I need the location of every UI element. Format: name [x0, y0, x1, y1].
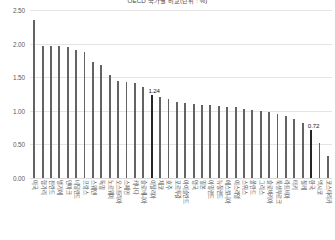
x-axis-label-slot: 독일 [97, 179, 105, 240]
x-axis-tick-label: 포르투갈 [175, 180, 180, 199]
x-axis-label-slot: 포르투갈 [173, 179, 181, 240]
x-axis-label-slot: 코스타리카 [324, 179, 332, 240]
x-axis-label-slot: 일본 [198, 179, 206, 240]
bar [201, 105, 203, 178]
x-axis-tick-label: 뉴질랜드 [217, 180, 222, 199]
x-axis-label-slot: 이스라엘 [231, 179, 239, 240]
bar [159, 97, 161, 178]
x-axis-label-slot: 체코 [156, 179, 164, 240]
x-axis-tick-label: 미국 [32, 180, 37, 190]
x-axis-label-slot: 미국 [30, 179, 38, 240]
bar [193, 104, 195, 178]
bar-slot [64, 10, 72, 178]
plot-area: 1.240.72 [30, 10, 332, 178]
y-axis-tick-label: 2.00 [13, 40, 25, 47]
y-axis-tick-label: 0.00 [13, 175, 25, 182]
x-axis-tick-label: 덴마크 [65, 180, 70, 194]
bar [109, 75, 111, 178]
bar-slot [299, 10, 307, 178]
bar-slot [72, 10, 80, 178]
bar [50, 46, 52, 178]
bar [84, 52, 86, 178]
bar-slot [248, 10, 256, 178]
bar [310, 130, 312, 178]
bar [235, 107, 237, 178]
x-axis-label-slot: 호주 [164, 179, 172, 240]
x-axis-label-slot: 슬로베니아 [139, 179, 147, 240]
bar [117, 81, 119, 178]
x-axis-label-slot: 한국 [307, 179, 315, 240]
x-axis-tick-label: 아이슬란드 [183, 180, 188, 204]
x-axis-tick-label: 터키 [292, 180, 297, 190]
x-axis-tick-label: 일본 [200, 180, 205, 190]
bar [277, 114, 279, 178]
x-axis-label-slot: 스위스 [240, 179, 248, 240]
bar [176, 102, 178, 178]
bar-slot [47, 10, 55, 178]
x-axis-tick-label: 헝가리 [40, 180, 45, 194]
bar [268, 112, 270, 178]
bar [75, 50, 77, 178]
y-axis-tick-label: 1.00 [13, 107, 25, 114]
x-axis-tick-label: 호주 [166, 180, 171, 190]
x-axis-label-slot: 룩셈부르크 [273, 179, 281, 240]
bar [168, 99, 170, 178]
bar-slot [223, 10, 231, 178]
x-axis-label-slot: 터키 [290, 179, 298, 240]
x-axis-tick-label: 칠레 [300, 180, 305, 190]
bar-slot [215, 10, 223, 178]
x-axis-tick-label: 체코 [158, 180, 163, 190]
x-axis-label-slot: 이탈리아 [147, 179, 155, 240]
x-axis-tick-label: 핀란드 [49, 180, 54, 194]
x-axis-tick-label: 네덜란드 [74, 180, 79, 199]
bar [42, 46, 44, 178]
x-axis-label-slot: 칠레 [299, 179, 307, 240]
x-axis-tick-label: 그리스 [258, 180, 263, 194]
x-axis-tick-label: 폴란드 [250, 180, 255, 194]
y-axis-tick-label: 1.50 [13, 74, 25, 81]
x-axis-label-slot: 스웨덴 [89, 179, 97, 240]
x-axis-label-slot: 멕시코 [315, 179, 323, 240]
x-axis-tick-label: 라트비아 [284, 180, 289, 199]
bar-slot [156, 10, 164, 178]
x-axis-label-slot: 그리스 [257, 179, 265, 240]
x-axis-label-slot: 핀란드 [47, 179, 55, 240]
x-axis-label-slot: 영국 [189, 179, 197, 240]
bar [58, 46, 60, 178]
x-axis-tick-label: 스페인 [124, 180, 129, 194]
bar-slot [273, 10, 281, 178]
x-axis-tick-label: 스웨덴 [91, 180, 96, 194]
bar [302, 123, 304, 178]
x-axis-label-slot: 에스토니아 [223, 179, 231, 240]
x-axis-label-slot: 폴란드 [248, 179, 256, 240]
bar [327, 156, 329, 178]
x-axis-tick-label: 스위스 [242, 180, 247, 194]
bar [142, 87, 144, 178]
bar-series: 1.240.72 [30, 10, 332, 178]
bar-slot [231, 10, 239, 178]
x-axis-tick-label: 이탈리아 [149, 180, 154, 199]
bar [67, 47, 69, 178]
bar-slot [89, 10, 97, 178]
bar-slot [290, 10, 298, 178]
bar-slot: 1.24 [147, 10, 155, 178]
x-axis-label-slot: 스페인 [122, 179, 130, 240]
x-axis-tick-label: 아일랜드 [208, 180, 213, 199]
bar-slot [315, 10, 323, 178]
bar-slot [114, 10, 122, 178]
x-axis-label-slot: 뉴질랜드 [215, 179, 223, 240]
bar [243, 109, 245, 178]
bar [260, 111, 262, 178]
bar-slot [282, 10, 290, 178]
bar-slot [97, 10, 105, 178]
x-axis-label-slot: 오스트리아 [114, 179, 122, 240]
bar-slot [257, 10, 265, 178]
bar-slot [240, 10, 248, 178]
x-axis-tick-label: 멕시코 [317, 180, 322, 194]
bar-slot: 0.72 [307, 10, 315, 178]
bar-slot [38, 10, 46, 178]
bar-slot [198, 10, 206, 178]
x-axis-label-slot: 노르웨이 [106, 179, 114, 240]
y-axis-tick-label: 2.50 [13, 7, 25, 14]
bar-slot [122, 10, 130, 178]
